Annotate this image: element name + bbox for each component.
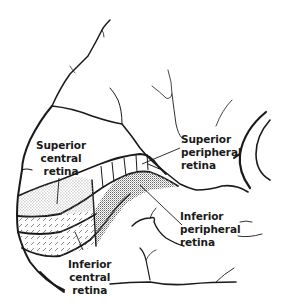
label-superior-central: Superior central retina [36, 139, 86, 178]
retina-cortex-diagram: Superior central retina Superior periphe… [0, 0, 295, 307]
arc-outer [240, 112, 266, 188]
outline-top-gyrus [52, 20, 110, 106]
region-inferior-central [18, 210, 96, 256]
arc-inner [256, 120, 270, 180]
leader-inferior-peripheral [140, 185, 182, 225]
lower-sulcus [110, 282, 236, 285]
label-inferior-central: Inferior central retina [68, 258, 111, 297]
label-superior-peripheral: Superior peripheral retina [181, 133, 241, 172]
label-inferior-peripheral: Inferior peripheral retina [180, 210, 240, 249]
region-superior-central [18, 177, 95, 217]
